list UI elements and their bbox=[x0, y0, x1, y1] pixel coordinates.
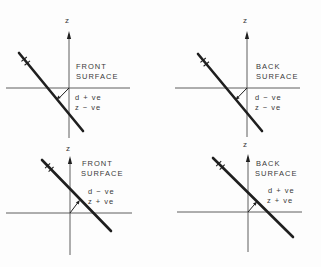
panel-top-right-graphics bbox=[175, 31, 300, 137]
z-sign-label: z + ve bbox=[88, 198, 114, 206]
z-sign-label: z − ve bbox=[255, 104, 281, 112]
z-axis-arrowhead-icon bbox=[68, 156, 72, 164]
figure-graphics bbox=[0, 0, 321, 267]
z-axis-arrowhead-icon bbox=[246, 154, 250, 162]
normal-arrow bbox=[70, 203, 78, 213]
surface-title-line1: FRONT bbox=[76, 63, 107, 71]
surface-title-line1: FRONT bbox=[82, 160, 113, 168]
surface-title-line2: SURFACE bbox=[76, 73, 118, 81]
normal-arrow bbox=[60, 88, 70, 98]
z-axis-arrowhead-icon bbox=[245, 31, 249, 39]
surface-line bbox=[19, 53, 83, 131]
z-axis-label: z bbox=[66, 145, 70, 153]
z-axis-label: z bbox=[65, 17, 69, 25]
z-axis-label: z bbox=[243, 141, 247, 149]
surface-title-line2: SURFACE bbox=[81, 170, 123, 178]
surface-line bbox=[198, 54, 262, 131]
d-sign-label: d − ve bbox=[255, 94, 282, 102]
normal-arrow bbox=[248, 204, 255, 212]
surface-title-line2: SURFACE bbox=[256, 73, 298, 81]
normal-arrow bbox=[238, 88, 247, 97]
panel-top-left-graphics bbox=[6, 31, 130, 138]
z-axis-label: z bbox=[243, 17, 247, 25]
surface-title-line2: SURFACE bbox=[255, 170, 297, 178]
surface-title-line1: BACK bbox=[256, 160, 280, 168]
figure-canvas: z FRONT SURFACE d + ve z − ve z BACK SUR… bbox=[0, 0, 321, 267]
z-axis-arrowhead-icon bbox=[67, 31, 71, 39]
z-sign-label: z − ve bbox=[75, 104, 101, 112]
surface-title-line1: BACK bbox=[256, 63, 280, 71]
d-sign-label: d + ve bbox=[75, 94, 102, 102]
d-sign-label: d − ve bbox=[88, 188, 115, 196]
d-sign-label: d + ve bbox=[268, 187, 295, 195]
z-sign-label: z + ve bbox=[267, 197, 293, 205]
